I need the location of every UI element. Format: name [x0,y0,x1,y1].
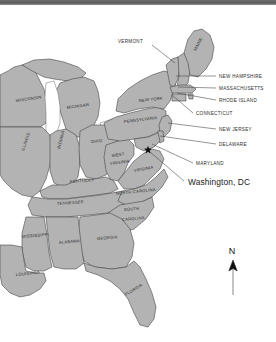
state-rhode-island [188,94,193,99]
eastern-us-map-svg: WISCONSINMICHIGANILLINOISINDIANAOHIONEW … [0,5,276,342]
state-connecticut [172,94,186,101]
callout-label-massachusetts: MASSACHUSETTS [219,86,264,91]
state-new-york [116,71,176,113]
state-florida [84,261,156,327]
leader-line-vermont [152,45,175,63]
leader-line-new-jersey [168,123,216,129]
washington-dc-label: Washington, DC [188,177,250,187]
map-canvas: WISCONSINMICHIGANILLINOISINDIANAOHIONEW … [0,5,276,342]
compass-rose: N [229,246,237,295]
callout-label-maryland: MARYLAND [196,161,224,166]
callout-label-new-jersey: NEW JERSEY [219,127,252,132]
callout-label-vermont: VERMONT [118,39,143,44]
callout-label-new-hampshire: NEW HAMPSHIRE [219,74,262,79]
callout-label-connecticut: CONNECTICUT [196,111,233,116]
compass-north-label: N [229,246,236,256]
state-massachusetts [170,85,196,93]
leader-line-delaware [160,136,216,144]
callout-label-rhode-island: RHODE ISLAND [219,98,257,103]
callout-label-delaware: DELAWARE [219,142,247,147]
state-polygons [0,29,214,327]
